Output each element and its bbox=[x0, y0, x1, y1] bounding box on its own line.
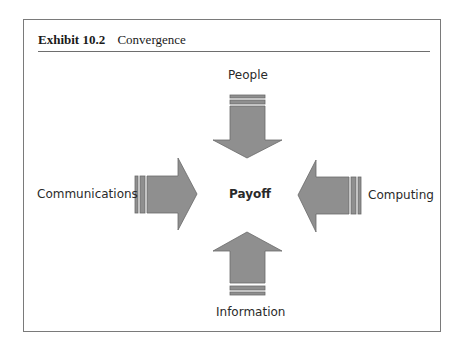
convergence-diagram bbox=[0, 0, 463, 351]
center-label-payoff: Payoff bbox=[229, 187, 271, 201]
arrow-left-icon bbox=[298, 160, 361, 232]
arrow-right-icon bbox=[135, 158, 197, 230]
label-information: Information bbox=[216, 305, 285, 319]
arrow-down-icon bbox=[213, 95, 282, 158]
arrow-up-icon bbox=[213, 232, 282, 295]
label-people: People bbox=[228, 68, 268, 82]
label-computing: Computing bbox=[368, 188, 434, 202]
label-communications: Communications bbox=[37, 187, 138, 201]
